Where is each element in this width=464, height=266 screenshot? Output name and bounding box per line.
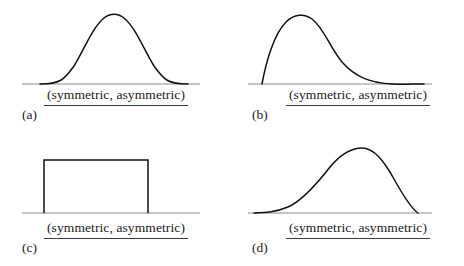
panel-letter-a: (a)	[22, 108, 37, 122]
panel-letter-d: (d)	[252, 241, 268, 255]
panel-letter-c: (c)	[22, 241, 37, 255]
plot-a	[0, 0, 232, 92]
distribution-shapes-figure: (symmetric, asymmetric) (a) (symmetric, …	[0, 0, 464, 266]
answer-choice-c: (symmetric, asymmetric)	[0, 218, 232, 239]
plot-c	[0, 133, 232, 225]
uniform-rectangle	[44, 160, 148, 213]
panel-b: (symmetric, asymmetric) (b)	[232, 0, 464, 133]
symmetric-bell-curve	[40, 14, 188, 84]
left-skewed-curve	[254, 148, 418, 213]
panel-a: (symmetric, asymmetric) (a)	[0, 0, 232, 133]
answer-choice-a: (symmetric, asymmetric)	[0, 85, 232, 106]
panel-letter-b: (b)	[252, 108, 268, 122]
answer-choice-d: (symmetric, asymmetric)	[242, 218, 464, 239]
panel-c: (symmetric, asymmetric) (c)	[0, 133, 232, 266]
answer-choice-c-text[interactable]: (symmetric, asymmetric)	[44, 220, 188, 239]
panel-d: (symmetric, asymmetric) (d)	[232, 133, 464, 266]
right-skewed-curve	[262, 15, 424, 84]
answer-choice-b-text[interactable]: (symmetric, asymmetric)	[286, 87, 430, 106]
answer-choice-d-text[interactable]: (symmetric, asymmetric)	[286, 220, 430, 239]
answer-choice-b: (symmetric, asymmetric)	[242, 85, 464, 106]
plot-b	[232, 0, 464, 92]
plot-d	[232, 133, 464, 225]
answer-choice-a-text[interactable]: (symmetric, asymmetric)	[44, 87, 188, 106]
